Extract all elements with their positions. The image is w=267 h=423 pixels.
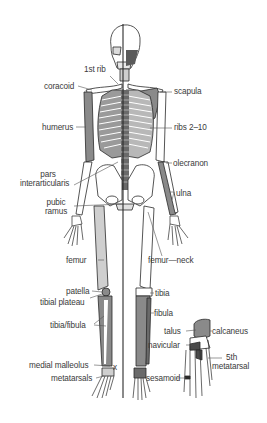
right-femur: [140, 206, 154, 290]
right-knee: [136, 288, 152, 296]
spine: [121, 90, 129, 190]
label-medial-malleolus: medial malleolus: [29, 361, 88, 370]
label-scapula: scapula: [174, 87, 202, 96]
label-tibia-fibula: tibia/fibula: [50, 321, 86, 330]
left-hand: [64, 216, 83, 246]
label-olecranon: olecranon: [173, 159, 208, 168]
label-humerus: humerus: [42, 123, 73, 132]
left-patella: [102, 288, 110, 296]
right-hand: [168, 216, 188, 246]
label-calcaneus: calcaneus: [212, 327, 248, 336]
left-foot: [92, 368, 114, 398]
left-femur: [94, 206, 108, 290]
skeleton-diagram: 1st rib coracoid scapula humerus ribs 2–…: [0, 0, 267, 423]
label-first-rib: 1st rib: [84, 65, 106, 74]
label-interarticularis: interarticularis: [20, 179, 69, 188]
right-foot: [133, 368, 150, 400]
label-fibula: fibula: [154, 309, 173, 318]
label-coracoid: coracoid: [44, 82, 74, 91]
label-femur-neck: femur—neck: [148, 256, 193, 265]
label-sesamoid: sesamoid: [146, 374, 180, 383]
label-pars: pars: [20, 170, 76, 179]
label-patella: patella: [66, 287, 89, 296]
label-ribs: ribs 2–10: [174, 123, 207, 132]
label-pubic: pubic: [36, 198, 76, 207]
right-fibula: [146, 298, 151, 364]
skull: [111, 25, 140, 69]
label-talus: talus: [164, 327, 181, 336]
label-navicular: navicular: [148, 341, 180, 350]
label-tibia: tibia: [155, 289, 170, 298]
left-forearm: [76, 162, 92, 215]
cervical-spine: [120, 69, 129, 81]
label-x-mark: x: [113, 363, 117, 372]
label-metatarsal: metatarsal: [212, 362, 249, 371]
label-ramus: ramus: [36, 207, 76, 216]
label-femur: femur: [66, 256, 86, 265]
label-tibial-plateau: tibial plateau: [40, 298, 85, 307]
label-metatarsals: metatarsals: [51, 374, 92, 383]
right-humerus: [156, 92, 166, 162]
label-ulna: ulna: [176, 189, 191, 198]
label-fifth: 5th: [226, 353, 237, 362]
